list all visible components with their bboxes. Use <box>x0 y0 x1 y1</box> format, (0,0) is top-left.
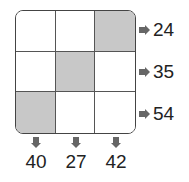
arrow-down-icon <box>31 137 41 149</box>
col-sum-3: 42 <box>96 137 136 172</box>
grid-cell-r3c1-shaded <box>16 92 56 133</box>
row-sum-value: 24 <box>153 20 174 40</box>
grid-cell-r2c2-shaded <box>56 52 96 93</box>
row-sum-1: 24 <box>139 20 174 40</box>
arrow-right-icon <box>139 67 153 77</box>
puzzle-grid <box>15 10 136 134</box>
col-sum-value: 40 <box>16 152 56 172</box>
grid-cell-r2c1 <box>16 52 56 93</box>
arrow-down-icon <box>71 137 81 149</box>
grid-cell-r1c1 <box>16 11 56 52</box>
col-sum-value: 27 <box>56 152 96 172</box>
arrow-down-icon <box>111 137 121 149</box>
grid-cell-r2c3 <box>95 52 135 93</box>
row-sum-value: 54 <box>153 104 174 124</box>
grid-cell-r1c2 <box>56 11 96 52</box>
row-sum-3: 54 <box>139 104 174 124</box>
row-sum-2: 35 <box>139 62 174 82</box>
grid-cell-r1c3-shaded <box>95 11 135 52</box>
col-sum-1: 40 <box>16 137 56 172</box>
col-sum-value: 42 <box>96 152 136 172</box>
arrow-right-icon <box>139 109 153 119</box>
row-sum-value: 35 <box>153 62 174 82</box>
col-sum-2: 27 <box>56 137 96 172</box>
grid-cell-r3c2 <box>56 92 96 133</box>
grid-cell-r3c3 <box>95 92 135 133</box>
arrow-right-icon <box>139 25 153 35</box>
